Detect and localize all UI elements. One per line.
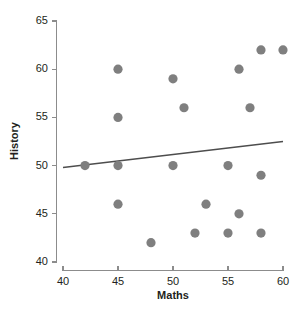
data-point bbox=[201, 200, 210, 209]
data-point bbox=[256, 171, 265, 180]
plot-canvas: 65 60 55 50 45 40 History 40 45 50 bbox=[0, 0, 299, 314]
data-points-group bbox=[80, 45, 287, 247]
x-tick-label-40: 40 bbox=[57, 275, 69, 287]
y-tick-label-60: 60 bbox=[36, 62, 48, 74]
x-tick-label-45: 45 bbox=[112, 275, 124, 287]
x-tick-label-60: 60 bbox=[277, 275, 289, 287]
x-axis-tick-labels: 40 45 50 55 60 bbox=[57, 275, 289, 287]
scatter-plot-figure: 65 60 55 50 45 40 History 40 45 50 bbox=[0, 0, 299, 314]
y-axis-ticks bbox=[52, 21, 57, 262]
y-tick-label-50: 50 bbox=[36, 159, 48, 171]
data-point bbox=[278, 45, 287, 54]
data-point bbox=[256, 228, 265, 237]
x-axis-group: 40 45 50 55 60 Maths bbox=[57, 266, 289, 302]
data-point bbox=[168, 161, 177, 170]
y-tick-label-65: 65 bbox=[36, 14, 48, 26]
x-tick-label-50: 50 bbox=[167, 275, 179, 287]
y-axis-title: History bbox=[8, 121, 20, 160]
x-axis-title: Maths bbox=[157, 289, 189, 301]
x-tick-label-55: 55 bbox=[222, 275, 234, 287]
data-point bbox=[146, 238, 155, 247]
data-point bbox=[168, 74, 177, 83]
data-point bbox=[223, 161, 232, 170]
data-point bbox=[245, 103, 254, 112]
data-point bbox=[113, 200, 122, 209]
y-axis-tick-labels: 65 60 55 50 45 40 bbox=[36, 14, 48, 267]
data-point bbox=[190, 228, 199, 237]
data-point bbox=[223, 228, 232, 237]
data-point bbox=[256, 45, 265, 54]
data-point bbox=[113, 113, 122, 122]
x-axis-ticks bbox=[63, 266, 283, 271]
data-point bbox=[179, 103, 188, 112]
data-point bbox=[113, 65, 122, 74]
y-tick-label-45: 45 bbox=[36, 207, 48, 219]
y-tick-label-40: 40 bbox=[36, 255, 48, 267]
y-axis-group: 65 60 55 50 45 40 History bbox=[8, 14, 57, 267]
data-point bbox=[113, 161, 122, 170]
data-point bbox=[234, 65, 243, 74]
y-tick-label-55: 55 bbox=[36, 110, 48, 122]
data-point bbox=[80, 161, 89, 170]
data-point bbox=[234, 209, 243, 218]
